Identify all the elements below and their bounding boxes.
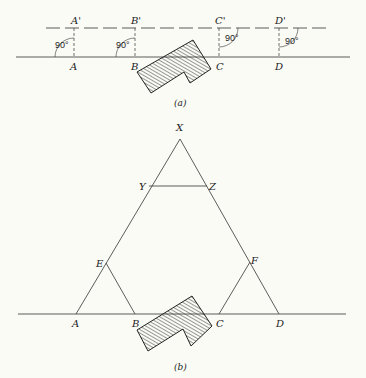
point-label-D-b: D — [275, 318, 284, 329]
point-label-Z: Z — [208, 181, 217, 192]
angle-label-D: 90° — [285, 36, 299, 46]
figure-a: 90° 90° 90° 90° A' B' C' D' A B C D (a) — [16, 15, 350, 108]
line-FC — [219, 262, 250, 314]
angle-label-B: 90° — [116, 40, 130, 50]
point-label-B: B — [130, 61, 138, 72]
point-label-F: F — [250, 255, 259, 266]
side-right — [180, 139, 279, 314]
point-label-A: A — [69, 61, 77, 72]
caption-a: (a) — [174, 98, 187, 108]
angle-label-A: 90° — [55, 40, 69, 50]
point-label-A-prime: A' — [70, 15, 81, 26]
point-label-C-b: C — [216, 318, 224, 329]
building-b — [137, 296, 212, 351]
point-label-C-prime: C' — [215, 15, 225, 26]
point-label-B-prime: B' — [130, 15, 141, 26]
point-label-A-b: A — [71, 318, 79, 329]
figure-b: X Y Z E F A B C D (b) — [18, 122, 346, 372]
point-label-Y: Y — [139, 181, 147, 192]
angle-label-C: 90° — [225, 33, 239, 43]
point-label-D: D — [274, 61, 283, 72]
point-label-D-prime: D' — [274, 15, 286, 26]
line-EB — [106, 263, 135, 314]
point-label-C: C — [216, 61, 224, 72]
point-label-B-b: B — [131, 318, 139, 329]
side-left — [76, 139, 180, 314]
point-label-X: X — [175, 122, 184, 133]
caption-b: (b) — [174, 362, 187, 372]
point-label-E: E — [95, 258, 104, 269]
building-a — [137, 40, 211, 93]
diagram-canvas: 90° 90° 90° 90° A' B' C' D' A B C D (a) … — [0, 0, 366, 378]
